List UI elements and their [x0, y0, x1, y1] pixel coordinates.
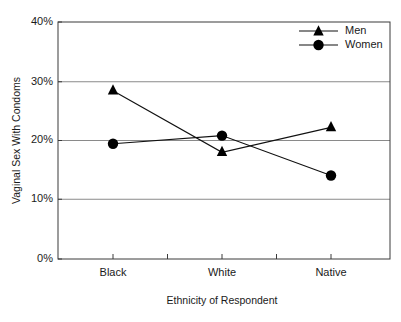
- legend-label-men: Men: [345, 24, 366, 36]
- series-women-point-native: [326, 170, 336, 180]
- y-tick-label-30: 30%: [31, 75, 53, 87]
- series-women-point-white: [217, 130, 227, 140]
- y-tick-label-40: 40%: [31, 15, 53, 27]
- y-tick-label-20: 20%: [31, 133, 53, 145]
- x-label-native: Native: [315, 266, 346, 278]
- x-axis-category-labels: Black White Native: [100, 266, 347, 278]
- y-tick-label-10: 10%: [31, 192, 53, 204]
- y-axis-title: Vaginal Sex With Condoms: [10, 77, 22, 204]
- x-axis-title: Ethnicity of Respondent: [167, 294, 278, 306]
- y-axis-tick-labels: 40% 30% 20% 10% 0%: [31, 15, 53, 264]
- line-chart: 40% 30% 20% 10% 0% Black White Native Et…: [0, 0, 401, 322]
- legend-label-women: Women: [345, 38, 383, 50]
- x-label-white: White: [208, 266, 236, 278]
- series-women-point-black: [108, 139, 118, 149]
- chart-figure: 40% 30% 20% 10% 0% Black White Native Et…: [0, 0, 401, 322]
- y-tick-label-0: 0%: [37, 252, 53, 264]
- circle-marker-icon: [313, 40, 323, 50]
- x-label-black: Black: [100, 266, 127, 278]
